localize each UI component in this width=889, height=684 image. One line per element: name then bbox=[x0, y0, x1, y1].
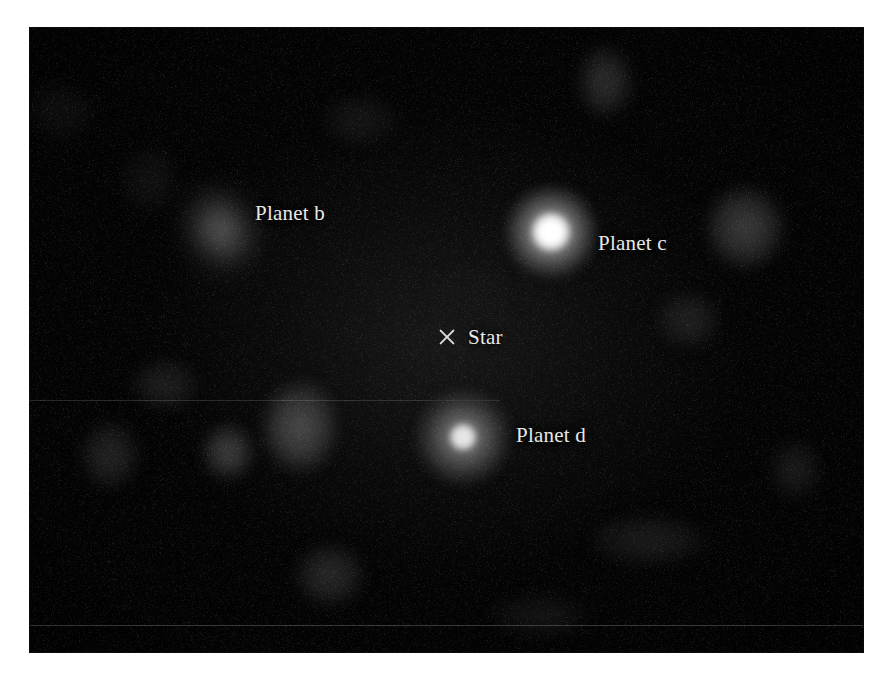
speckle-blob bbox=[262, 381, 338, 473]
speckle-blob bbox=[769, 440, 821, 500]
sky-image-frame: Planet b Planet c Planet d Star bbox=[30, 28, 863, 652]
speckle-blob bbox=[30, 80, 94, 140]
planet-c-halo bbox=[505, 186, 597, 278]
figure-root: Planet b Planet c Planet d Star bbox=[0, 0, 889, 684]
planet-d-core bbox=[450, 424, 476, 450]
label-planet-c: Planet c bbox=[598, 233, 667, 254]
image-grain-texture bbox=[30, 28, 863, 652]
planet-c-core bbox=[532, 213, 570, 251]
label-star: Star bbox=[468, 327, 503, 348]
speckle-blob bbox=[202, 424, 254, 480]
source-planet-b bbox=[166, 175, 276, 285]
scanline-artifact bbox=[30, 625, 863, 626]
speckle-blob bbox=[656, 292, 720, 348]
speckle-blob bbox=[577, 46, 633, 118]
speckle-blob bbox=[320, 94, 400, 146]
planet-b-halo bbox=[147, 156, 296, 305]
speckle-blob bbox=[705, 186, 785, 270]
source-planet-d bbox=[415, 389, 511, 485]
planet-d-halo bbox=[415, 389, 511, 485]
speckle-blob bbox=[131, 359, 199, 411]
scanline-artifact bbox=[30, 400, 500, 401]
source-planet-c bbox=[505, 186, 597, 278]
speckle-blob bbox=[80, 421, 140, 489]
star-position-x-icon bbox=[437, 327, 457, 347]
label-planet-d: Planet d bbox=[516, 425, 586, 446]
x-stroke-1 bbox=[439, 329, 455, 345]
frame-vignette bbox=[30, 28, 863, 652]
speckle-blob bbox=[424, 266, 512, 334]
speckle-blob bbox=[294, 543, 366, 607]
speckle-blob bbox=[120, 146, 180, 214]
speckle-blob bbox=[588, 514, 708, 566]
residual-starlight-glow bbox=[30, 28, 863, 652]
x-stroke-2 bbox=[439, 329, 455, 345]
label-planet-b: Planet b bbox=[255, 203, 325, 224]
speckle-blob bbox=[490, 593, 590, 637]
